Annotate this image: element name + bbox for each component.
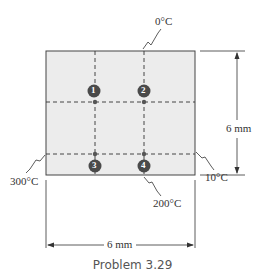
node-4-label: 4 — [141, 161, 146, 170]
right-boundary-label: 10°C — [205, 172, 228, 183]
node-3-label: 3 — [92, 161, 97, 170]
height-dimension-label: 6 mm — [226, 123, 251, 134]
node-2-label: 2 — [141, 86, 146, 95]
node-1-label: 1 — [91, 86, 96, 95]
height-dimension — [200, 51, 245, 175]
top-boundary-label: 0°C — [155, 16, 172, 27]
plate — [46, 51, 195, 175]
left-boundary-label: 300°C — [10, 176, 38, 187]
width-dimension-label: 6 mm — [107, 239, 132, 250]
diagram-canvas — [0, 0, 265, 274]
figure-caption: Problem 3.29 — [0, 258, 265, 272]
bottom-boundary-label: 200°C — [153, 198, 181, 209]
